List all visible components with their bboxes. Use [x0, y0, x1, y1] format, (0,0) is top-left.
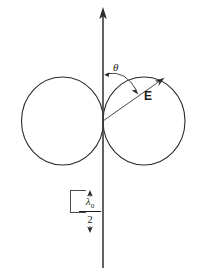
figure-canvas: θ E λ0 2	[0, 0, 206, 271]
theta-arc	[108, 73, 137, 90]
theta-arc-end-arrowhead-icon	[132, 85, 139, 94]
fraction-denominator: 2	[79, 213, 101, 225]
left-lobe-circle	[22, 77, 104, 165]
theta-angle-label: θ	[113, 62, 118, 73]
half-wavelength-label: λ0 2	[79, 196, 101, 225]
diagram-svg	[0, 0, 206, 271]
fraction-bar	[79, 211, 101, 212]
lambda-subscript: 0	[91, 202, 95, 210]
lambda-numerator: λ0	[79, 196, 101, 211]
e-field-label: E	[144, 90, 152, 102]
